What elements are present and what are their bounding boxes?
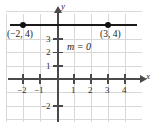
y-tick-label: −2 — [41, 102, 51, 111]
x-tick-label: 2 — [88, 86, 93, 95]
y-axis-tick — [53, 52, 63, 53]
data-point — [20, 22, 26, 28]
plotted-line — [10, 24, 137, 26]
y-axis-tick — [53, 105, 63, 106]
x-tick-label: −2 — [17, 86, 27, 95]
x-tick-label: 1 — [71, 86, 76, 95]
slope-annotation: m = 0 — [67, 42, 91, 52]
x-axis-tick — [124, 74, 125, 84]
y-tick-label: 3 — [46, 35, 51, 44]
x-axis-tick — [39, 74, 40, 84]
x-axis-label: x — [146, 72, 150, 81]
grid-line-horizontal — [6, 106, 142, 107]
x-axis-tick — [22, 74, 23, 84]
y-axis-label: y — [61, 2, 65, 11]
y-axis-tick — [53, 38, 63, 39]
coordinate-plane-figure: x y −2 −1 1 2 3 4 3 2 1 −2 (−2, 4) (3, 4… — [0, 0, 155, 124]
x-axis-tick — [90, 74, 91, 84]
grid-line-horizontal — [6, 52, 142, 53]
x-tick-label: 3 — [105, 86, 110, 95]
x-tick-label: −1 — [34, 86, 44, 95]
x-axis-tick — [73, 74, 74, 84]
grid-line-horizontal — [6, 11, 142, 12]
grid-line-horizontal — [6, 66, 142, 67]
data-point-label-right: (3, 4) — [100, 30, 121, 40]
data-point — [105, 22, 111, 28]
y-axis-tick — [53, 65, 63, 66]
x-tick-label: 4 — [122, 86, 127, 95]
x-axis-tick — [107, 74, 108, 84]
y-tick-label: 2 — [46, 48, 51, 57]
x-axis — [8, 78, 142, 80]
y-tick-label: 1 — [46, 62, 51, 71]
data-point-label-left: (−2, 4) — [7, 30, 33, 40]
grid-line-horizontal — [6, 119, 142, 120]
